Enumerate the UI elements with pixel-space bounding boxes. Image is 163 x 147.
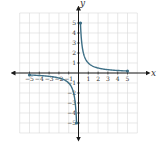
curve-right-branch	[80, 23, 127, 71]
x-tick-label: 1	[86, 75, 90, 82]
y-tick-label: −2	[67, 89, 76, 96]
y-tick-label: −4	[67, 109, 76, 116]
y-tick-label: 5	[72, 19, 76, 26]
endpoint-dot	[79, 21, 82, 24]
x-axis-label: x	[151, 68, 156, 78]
x-tick-label: 3	[106, 75, 110, 82]
x-tick-label: 2	[96, 75, 100, 82]
endpoint-dot	[75, 121, 78, 124]
hyperbola-chart: −5−4−3−2−112345−5−4−3−2−112345 x y	[0, 0, 163, 147]
x-tick-label: 4	[116, 75, 120, 82]
x-tick-label: 5	[126, 75, 130, 82]
endpoint-dot	[126, 69, 129, 72]
y-tick-label: 3	[72, 39, 76, 46]
endpoint-dot	[28, 73, 31, 76]
y-axis-label: y	[79, 0, 86, 8]
y-tick-label: −5	[67, 119, 76, 126]
y-tick-label: 4	[72, 29, 76, 36]
y-tick-label: 2	[72, 49, 76, 56]
y-tick-label: 1	[72, 59, 76, 66]
